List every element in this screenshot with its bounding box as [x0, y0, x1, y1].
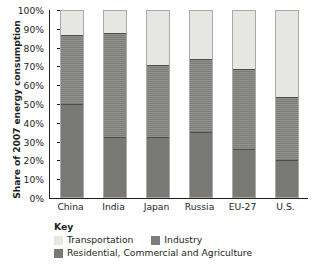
bar-segment-industry	[190, 59, 212, 132]
bar-segment-residential	[276, 160, 298, 197]
x-tick-label: EU-27	[221, 201, 264, 212]
legend-title: Key	[54, 221, 310, 232]
bar-segment-industry	[147, 65, 169, 138]
x-tick-label: Japan	[135, 201, 178, 212]
legend: Key Transportation Industry Residential,…	[54, 221, 310, 260]
x-tick-label: Russia	[178, 201, 221, 212]
bar-segment-transportation	[104, 11, 126, 33]
bar-segment-transportation	[233, 11, 255, 69]
bar-segment-industry	[276, 97, 298, 160]
bar-segment-residential	[233, 149, 255, 197]
stacked-bar	[146, 10, 170, 198]
x-tick-label: U.S.	[264, 201, 307, 212]
y-tick-label: 80%	[12, 43, 44, 52]
y-tick-label: 40%	[12, 118, 44, 127]
stacked-bar	[275, 10, 299, 198]
legend-item-residential: Residential, Commercial and Agriculture	[54, 247, 252, 259]
legend-swatch-transportation	[54, 236, 63, 245]
legend-item-transportation: Transportation	[54, 234, 133, 246]
x-tick-label: India	[92, 201, 135, 212]
legend-row-2: Residential, Commercial and Agriculture	[54, 247, 310, 259]
legend-row-1: Transportation Industry	[54, 234, 310, 246]
bar-segment-residential	[190, 132, 212, 197]
x-tick-label: China	[49, 201, 92, 212]
legend-label-transportation: Transportation	[67, 234, 133, 246]
bar-slot	[179, 10, 222, 198]
stacked-bar	[60, 10, 84, 198]
y-tick-label: 100%	[12, 6, 44, 15]
bar-slot	[265, 10, 308, 198]
bar-segment-residential	[104, 137, 126, 197]
y-tick-label: 90%	[12, 24, 44, 33]
bar-segment-residential	[147, 137, 169, 197]
bar-segment-industry	[61, 35, 83, 104]
bar-slot	[50, 10, 93, 198]
bar-group	[50, 10, 308, 198]
legend-label-residential: Residential, Commercial and Agriculture	[67, 247, 252, 259]
legend-swatch-industry	[151, 236, 160, 245]
stacked-bar-chart: Share of 2007 energy consumption 100%90%…	[0, 0, 314, 271]
plot-area	[49, 10, 308, 199]
y-tick-label: 60%	[12, 81, 44, 90]
bar-slot	[93, 10, 136, 198]
legend-swatch-residential	[54, 249, 63, 258]
legend-item-industry: Industry	[151, 234, 202, 246]
bar-segment-transportation	[147, 11, 169, 65]
bar-segment-industry	[104, 33, 126, 137]
legend-label-industry: Industry	[164, 234, 202, 246]
x-axis-tick-labels: ChinaIndiaJapanRussiaEU-27U.S.	[49, 201, 307, 212]
stacked-bar	[232, 10, 256, 198]
bar-segment-industry	[233, 69, 255, 149]
y-axis-tick-labels: 100%90%80%70%60%50%40%30%20%10%0%	[12, 10, 44, 198]
bar-segment-transportation	[190, 11, 212, 59]
bar-segment-transportation	[61, 11, 83, 35]
y-tick-label: 0%	[12, 194, 44, 203]
bar-slot	[222, 10, 265, 198]
bar-segment-transportation	[276, 11, 298, 97]
stacked-bar	[189, 10, 213, 198]
bar-slot	[136, 10, 179, 198]
y-tick-label: 30%	[12, 137, 44, 146]
bar-segment-residential	[61, 104, 83, 197]
y-tick-label: 10%	[12, 175, 44, 184]
y-tick-label: 20%	[12, 156, 44, 165]
stacked-bar	[103, 10, 127, 198]
y-tick-label: 50%	[12, 100, 44, 109]
y-tick-label: 70%	[12, 62, 44, 71]
